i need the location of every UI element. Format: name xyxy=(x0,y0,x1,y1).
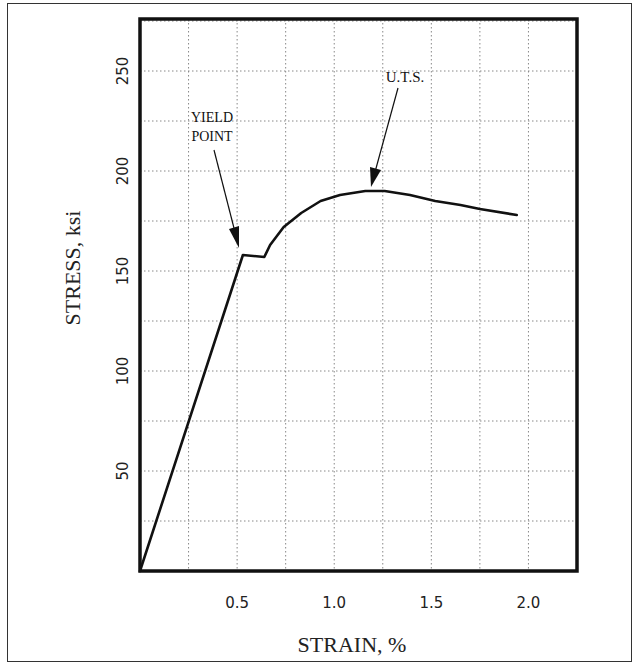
y-tick-label: 50 xyxy=(114,461,132,480)
uts-label: U.T.S. xyxy=(386,69,424,85)
x-tick-label: 2.0 xyxy=(517,594,541,612)
curve-line xyxy=(140,191,517,571)
yield-arrow-line xyxy=(214,150,236,236)
y-tick-label: 100 xyxy=(114,357,132,386)
uts-arrow-head-icon xyxy=(370,167,381,187)
y-axis-ticks: 50100150200250 xyxy=(114,57,132,481)
grid-lines xyxy=(140,19,577,571)
y-tick-label: 200 xyxy=(114,157,132,186)
stress-strain-curve xyxy=(140,191,517,571)
uts-annotation: U.T.S. xyxy=(370,69,424,187)
y-tick-label: 150 xyxy=(114,257,132,286)
uts-arrow-line xyxy=(375,88,398,172)
plot-area-border xyxy=(140,19,577,571)
yield-label-line2: POINT xyxy=(191,129,233,144)
yield-arrow-head-icon xyxy=(229,226,239,248)
y-axis-title: STRESS, ksi xyxy=(60,211,85,326)
y-tick-label: 250 xyxy=(114,57,132,86)
x-tick-label: 0.5 xyxy=(225,594,249,612)
yield-point-annotation: YIELD POINT xyxy=(191,110,239,248)
yield-label-line1: YIELD xyxy=(191,110,233,125)
x-axis-title: STRAIN, % xyxy=(298,632,407,657)
x-tick-label: 1.0 xyxy=(322,594,346,612)
stress-strain-chart: 0.51.01.52.0 50100150200250 STRAIN, % ST… xyxy=(0,0,638,670)
x-tick-label: 1.5 xyxy=(419,594,443,612)
x-axis-ticks: 0.51.01.52.0 xyxy=(225,594,540,612)
